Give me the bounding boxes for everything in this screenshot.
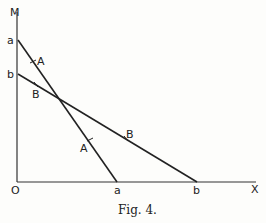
line-b [18, 74, 197, 182]
line-b-marker-upper: B [32, 88, 40, 101]
line-b-x-intercept-label: b [193, 184, 200, 197]
line-a-marker-lower: A [80, 142, 88, 155]
line-a-marker-upper: A [37, 55, 45, 68]
line-a-x-intercept-label: a [114, 184, 121, 197]
figure-caption: Fig. 4. [118, 203, 157, 217]
diagram-canvas: M X O a b a b A A B B Fig. 4. [0, 0, 266, 223]
line-b-y-intercept-label: b [7, 68, 14, 81]
x-axis-label: X [251, 183, 259, 196]
line-b-marker-lower: B [126, 128, 134, 141]
origin-label: O [11, 184, 20, 197]
y-axis-label: M [10, 6, 20, 19]
line-a-y-intercept-label: a [7, 34, 14, 47]
figure: M X O a b a b A A B B Fig. 4. [0, 0, 266, 223]
